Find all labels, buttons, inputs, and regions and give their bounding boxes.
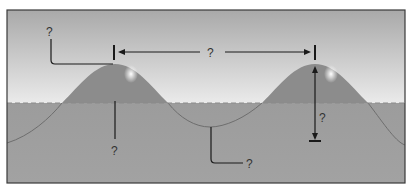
wave-height-label: ? <box>319 111 326 125</box>
crest-label: ? <box>46 25 53 39</box>
trough-label: ? <box>246 157 253 171</box>
wave-diagram: ? ? ? ? ? <box>0 0 415 191</box>
foam-left <box>124 65 138 83</box>
depth-label: ? <box>111 144 118 158</box>
wavelength-label: ? <box>207 46 214 60</box>
foam-right <box>324 65 338 83</box>
